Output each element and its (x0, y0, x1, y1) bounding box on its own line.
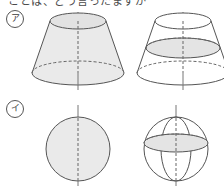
frustum-solid (32, 12, 124, 90)
frustum-bottom-back-arc (137, 61, 224, 73)
figure-canvas (0, 0, 224, 187)
sphere-cross-section (144, 105, 208, 186)
sphere-solid (46, 105, 110, 186)
geometry-figure-sheet: ことは、どう言ったますか ア イ (0, 0, 224, 187)
frustum-bottom-front-arc (137, 73, 224, 85)
frustum-cross-section (137, 12, 224, 90)
